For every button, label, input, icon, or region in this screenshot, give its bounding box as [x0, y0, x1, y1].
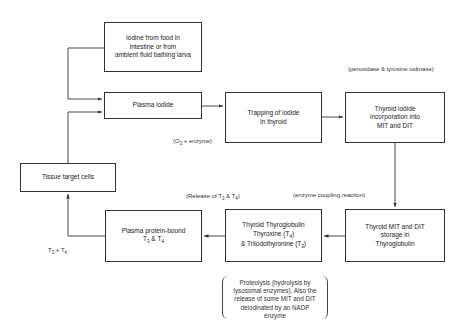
text: + T [54, 247, 64, 253]
node-trapping: Trapping of iodide in thyroid [225, 92, 322, 143]
note-text: deiodinated by an NADP enzyme [229, 304, 321, 320]
node-text: ambient fluid bathing larva [115, 51, 191, 59]
node-text: T3 & T4 [122, 235, 186, 245]
text: (Release of T [186, 193, 222, 199]
node-text: Thyroxine (T4) [241, 230, 306, 240]
node-tissue-target: Tissue target cells [20, 163, 116, 192]
node-text: Trapping of iodide [248, 109, 300, 117]
note-text: Proteolysis (hydrolysis by [229, 279, 321, 287]
node-text: Iodine from food in [115, 34, 191, 42]
text: ) [304, 240, 306, 247]
node-incorporation: Thyroid iodide incorporation into MIT an… [345, 92, 445, 143]
note-text: lysosomal enzymes). Also the [229, 287, 321, 295]
node-text: Thyroglobulin [365, 240, 424, 248]
node-text: Thyroid iodide [370, 105, 420, 113]
node-iodine-source: Iodine from food in intestine or from am… [104, 22, 202, 72]
node-text: MIT and DIT [370, 122, 420, 130]
node-text: Thyroid Thyroglobulin [241, 221, 306, 229]
node-text: intestine or from [115, 43, 191, 51]
text: Thyroxine (T [253, 230, 289, 237]
proteolysis-note: Proteolysis (hydrolysis by lysosomal enz… [222, 276, 328, 319]
label-release: (Release of T3 & T4) [186, 193, 240, 201]
label-o2-enzyme: (O2 + enzyme) [173, 138, 212, 146]
text: ) [292, 230, 294, 237]
node-text: incorporation into [370, 113, 420, 121]
node-text: Tissue target cells [42, 173, 94, 181]
label-peroxidase: (peroxidase & tyrosine iodinase) [348, 66, 434, 72]
node-text: Plasma iodide [133, 101, 174, 109]
subscript: 4 [65, 250, 68, 255]
node-text: Plasma protein-bound [122, 227, 186, 235]
node-thyroglobulin: Thyroid Thyroglobulin Thyroxine (T4) & T… [225, 209, 322, 262]
label-t3-t4: T3 + T4 [48, 247, 67, 255]
node-text: storage in [365, 231, 424, 239]
node-mit-dit-storage: Thyroid MIT and DIT storage in Thyroglob… [345, 209, 445, 262]
label-coupling: (enzyme coupling reaction) [293, 192, 365, 198]
text: ) [238, 193, 240, 199]
text: & T [224, 193, 235, 199]
subscript: 4 [161, 239, 164, 244]
text: & Triiodothyronine (T [241, 240, 301, 247]
node-text: Thyroid MIT and DIT [365, 223, 424, 231]
node-plasma-iodide: Plasma iodide [104, 92, 202, 119]
node-text: & Triiodothyronine (T3) [241, 240, 306, 250]
node-text: in thyroid [248, 118, 300, 126]
node-plasma-protein-bound: Plasma protein-bound T3 & T4 [105, 210, 202, 262]
text: + enzyme) [182, 138, 212, 144]
note-text: release of some MIT and DIT [229, 295, 321, 303]
text: (O [173, 138, 180, 144]
